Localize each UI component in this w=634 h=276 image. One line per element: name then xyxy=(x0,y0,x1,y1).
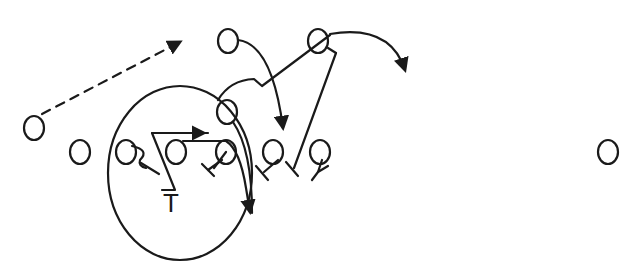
player-line-1 xyxy=(70,140,90,164)
player-end-far-right xyxy=(598,140,618,164)
player-back-up-left xyxy=(218,29,238,53)
player-line-5 xyxy=(263,140,283,164)
player-back-mid xyxy=(217,100,237,124)
player-line-6 xyxy=(310,140,330,164)
dashed-route-arrow xyxy=(42,42,180,114)
curve-route-right xyxy=(330,32,405,70)
target-label: T xyxy=(163,190,179,216)
zone-ellipse xyxy=(108,86,252,260)
player-line-3 xyxy=(166,140,186,164)
player-line-2 xyxy=(116,140,136,164)
player-wingback-left xyxy=(24,116,44,140)
step-route xyxy=(218,35,330,100)
play-diagram xyxy=(0,0,634,276)
